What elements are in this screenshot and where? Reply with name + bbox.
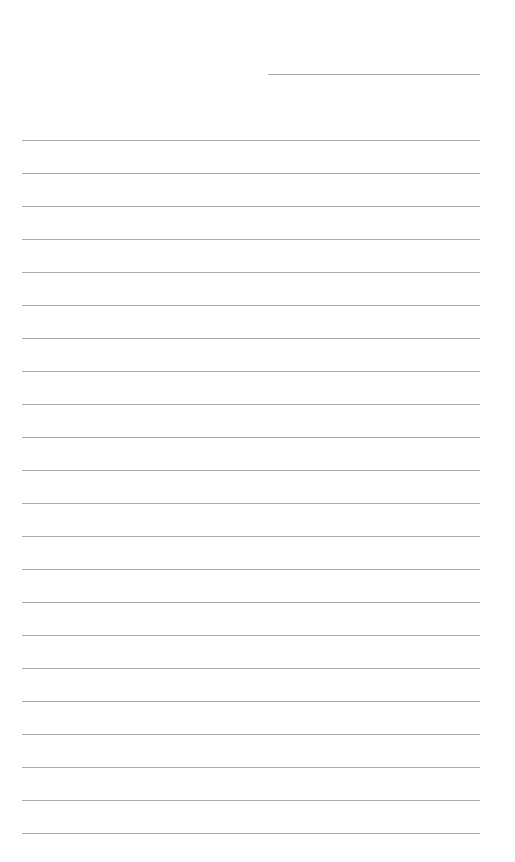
ruled-line (22, 437, 480, 438)
ruled-line (22, 833, 480, 834)
ruled-line (22, 635, 480, 636)
ruled-line (22, 569, 480, 570)
ruled-line (22, 470, 480, 471)
ruled-line (22, 371, 480, 372)
ruled-line (22, 305, 480, 306)
ruled-line (22, 767, 480, 768)
ruled-line (22, 503, 480, 504)
ruled-line (22, 272, 480, 273)
header-blank-line (268, 74, 480, 75)
ruled-line (22, 668, 480, 669)
ruled-line (22, 734, 480, 735)
ruled-line (22, 404, 480, 405)
ruled-line (22, 701, 480, 702)
ruled-line (22, 602, 480, 603)
ruled-line (22, 173, 480, 174)
ruled-line (22, 800, 480, 801)
ruled-line (22, 239, 480, 240)
ruled-line (22, 536, 480, 537)
ruled-line (22, 206, 480, 207)
ruled-line (22, 140, 480, 141)
ruled-line (22, 338, 480, 339)
